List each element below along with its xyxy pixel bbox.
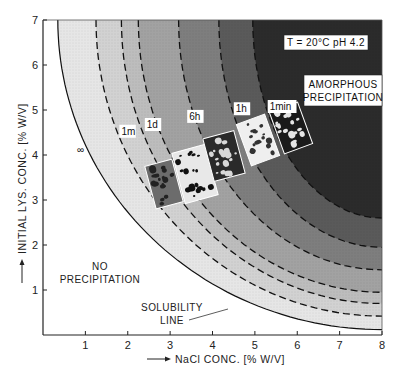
y-axis-title-group: INITIAL LYS. CONC. [% W/V] (16, 103, 28, 283)
amorphous-line-1: AMORPHOUS (308, 79, 377, 90)
time-label-1-hour: 1h (236, 103, 247, 114)
time-label-1-day: 1d (147, 119, 158, 130)
time-label-6-hours: 6h (189, 111, 200, 122)
x-tick-label: 2 (125, 339, 131, 351)
y-tick-label: 4 (32, 149, 38, 161)
x-tick-label: 8 (379, 339, 385, 351)
y-tick-label: 6 (32, 59, 38, 71)
amorphous-line-2: PRECIPITATION (303, 92, 383, 103)
conditions-box: T = 20°C pH 4.2 (284, 35, 368, 50)
time-label-1-minute: 1min (270, 101, 292, 112)
phase-diagram: 12345678 1234567 NaCl CONC. [% W/V] INIT… (0, 0, 397, 384)
y-tick-label: 1 (32, 284, 38, 296)
no-precipitation-line-1: NO (92, 261, 108, 272)
amorphous-precipitation-box: AMORPHOUS PRECIPITATION (303, 75, 383, 106)
x-axis-arrowhead-icon (165, 357, 171, 362)
time-label-1-month: 1m (121, 126, 135, 137)
x-axis-title-group: NaCl CONC. [% W/V] (147, 353, 285, 365)
x-tick-label: 3 (167, 339, 173, 351)
y-tick-label: 5 (32, 104, 38, 116)
solubility-label-line-2: LINE (160, 315, 184, 326)
x-tick-label: 6 (294, 339, 300, 351)
y-tick-label: 2 (32, 239, 38, 251)
x-tick-label: 4 (209, 339, 215, 351)
time-label-infinity: ∞ (77, 144, 84, 155)
no-precipitation-line-2: PRECIPITATION (60, 274, 140, 285)
x-tick-label: 7 (337, 339, 343, 351)
y-axis-title: INITIAL LYS. CONC. [% W/V] (16, 103, 28, 254)
y-axis-arrowhead-icon (20, 259, 25, 265)
x-tick-label: 1 (82, 339, 88, 351)
conditions-label: T = 20°C pH 4.2 (287, 37, 365, 48)
solubility-label-line-1: SOLUBILITY (141, 302, 203, 313)
y-tick-label: 7 (32, 14, 38, 26)
x-axis-title: NaCl CONC. [% W/V] (175, 353, 285, 365)
x-tick-label: 5 (252, 339, 258, 351)
y-tick-label: 3 (32, 194, 38, 206)
